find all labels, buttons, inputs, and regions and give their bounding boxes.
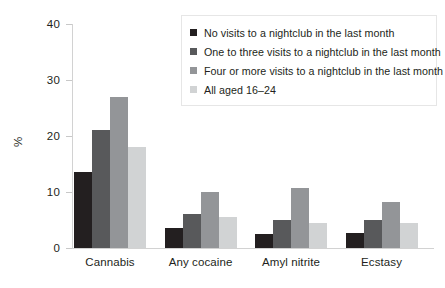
y-axis-tick-label: 20 [47, 130, 60, 142]
bar [219, 217, 237, 248]
legend-swatch-icon [190, 67, 197, 74]
legend-item-label: No visits to a nightclub in the last mon… [204, 27, 394, 39]
bar [400, 223, 418, 248]
y-axis-tick-label: 0 [53, 242, 60, 254]
bar [291, 188, 309, 248]
y-axis-tick-label: 10 [47, 186, 60, 198]
x-axis-category-label: Cannabis [85, 256, 134, 268]
legend: No visits to a nightclub in the last mon… [181, 15, 437, 106]
bar [165, 228, 183, 248]
bar [255, 234, 273, 248]
y-axis-tick-label: 40 [47, 18, 60, 30]
x-axis-category-label: Amyl nitrite [262, 256, 320, 268]
legend-swatch-icon [190, 86, 197, 93]
y-axis-title: % [12, 137, 24, 147]
bar [92, 130, 110, 248]
legend-swatch-icon [190, 48, 197, 55]
legend-item[interactable]: Four or more visits to a nightclub in th… [190, 61, 428, 80]
bar [309, 223, 327, 248]
legend-item-label: Four or more visits to a nightclub in th… [204, 65, 443, 77]
bar-group [74, 24, 146, 248]
bar [128, 147, 146, 248]
bar-chart: % 010203040 CannabisAny cocaineAmyl nitr… [0, 0, 445, 288]
legend-item-label: One to three visits to a nightclub in th… [204, 46, 441, 58]
legend-item[interactable]: No visits to a nightclub in the last mon… [190, 23, 428, 42]
bar [273, 220, 291, 248]
x-axis-line [72, 248, 434, 249]
bar [382, 202, 400, 248]
y-axis-tick-label: 30 [47, 74, 60, 86]
x-axis-category-label: Any cocaine [169, 256, 233, 268]
x-axis-category-label: Ecstasy [361, 256, 402, 268]
bar [346, 233, 364, 248]
legend-swatch-icon [190, 29, 197, 36]
bar [201, 192, 219, 248]
bar [183, 214, 201, 248]
bar [364, 220, 382, 248]
y-axis-tick-mark [66, 248, 72, 249]
legend-item[interactable]: One to three visits to a nightclub in th… [190, 42, 428, 61]
legend-item[interactable]: All aged 16–24 [190, 80, 428, 99]
bar [74, 172, 92, 248]
legend-item-label: All aged 16–24 [204, 84, 276, 96]
bar [110, 97, 128, 248]
